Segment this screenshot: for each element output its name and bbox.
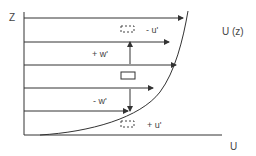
turbulent-flux-diagram: Z U U (z) - u' + w' - w' + u'	[0, 0, 256, 156]
bottom-parcel-label: + u'	[147, 120, 162, 130]
z-axis-label: Z	[9, 12, 15, 23]
top-parcel-label: - u'	[146, 25, 159, 35]
velocity-profile-curve	[40, 11, 188, 135]
reference-parcel	[121, 72, 135, 79]
displaced-parcel-top	[121, 26, 134, 32]
u-axis-label: U	[230, 141, 237, 152]
upward-arrow-label: + w'	[92, 49, 108, 59]
downward-arrow-label: - w'	[93, 96, 107, 106]
displaced-parcel-bottom	[121, 121, 134, 127]
profile-label: U (z)	[222, 26, 244, 37]
